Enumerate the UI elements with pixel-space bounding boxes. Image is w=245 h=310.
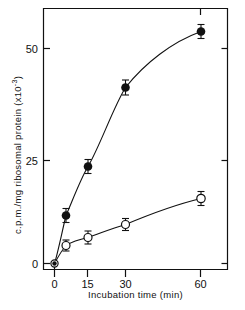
error-bars-filled bbox=[63, 25, 205, 223]
right-axis-ticks bbox=[222, 49, 228, 264]
plot-frame bbox=[44, 8, 229, 270]
y-tick-labels: 0 25 50 bbox=[26, 43, 38, 270]
figure-panel: 0 25 50 0 15 30 60 bbox=[0, 0, 245, 310]
x-axis-label: Incubation time (min) bbox=[43, 289, 228, 300]
plot-canvas: 0 25 50 0 15 30 60 bbox=[0, 0, 245, 310]
y-axis-label-prefix: c.p.m./mg ribosomal protein (x10 bbox=[12, 86, 23, 234]
markers-filled-circle bbox=[52, 27, 205, 265]
y-axis-ticks bbox=[44, 49, 51, 264]
series-curve-filled bbox=[55, 32, 202, 264]
y-axis-label-exponent: -3 bbox=[11, 79, 18, 86]
y-tick-label-25: 25 bbox=[26, 155, 38, 167]
y-axis-label-suffix: ) bbox=[12, 76, 23, 79]
y-axis-label: c.p.m./mg ribosomal protein (x10-3) bbox=[11, 82, 23, 234]
y-tick-label-50: 50 bbox=[26, 43, 38, 55]
y-tick-label-0: 0 bbox=[32, 258, 38, 270]
